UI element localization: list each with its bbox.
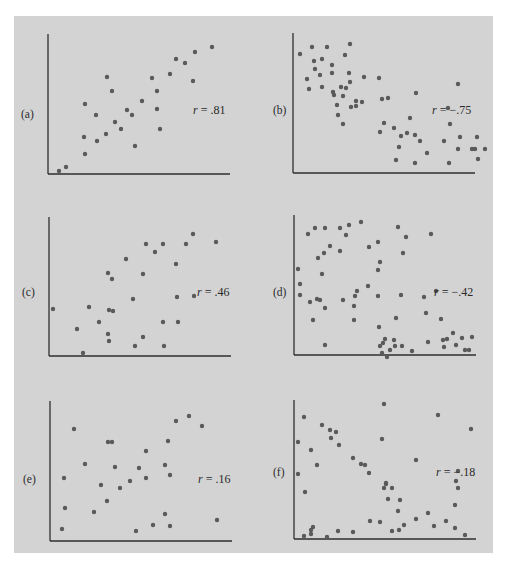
data-point [354, 104, 358, 108]
data-point [99, 483, 103, 487]
data-point [137, 466, 141, 470]
data-point [460, 336, 464, 340]
data-point [393, 344, 397, 348]
data-point [396, 509, 400, 513]
data-point [106, 440, 110, 444]
data-point [398, 498, 402, 502]
data-point [394, 158, 398, 162]
data-point [83, 462, 87, 466]
data-point [312, 59, 316, 63]
data-point [168, 524, 172, 528]
data-point [349, 105, 353, 109]
data-point [141, 335, 145, 339]
data-point [318, 298, 322, 302]
data-point [105, 499, 109, 503]
data-point [168, 473, 172, 477]
data-point [162, 344, 166, 348]
data-point [214, 240, 218, 244]
data-point [386, 497, 390, 501]
data-point [448, 122, 452, 126]
data-point [347, 223, 351, 227]
data-point [467, 348, 471, 352]
data-point [161, 242, 165, 246]
data-point [151, 523, 155, 527]
data-point [329, 436, 333, 440]
data-point [309, 448, 313, 452]
data-point [453, 503, 457, 507]
data-point [442, 139, 446, 143]
data-point [298, 293, 302, 297]
data-point [390, 486, 394, 490]
data-point [352, 318, 356, 322]
data-point [456, 147, 460, 151]
data-point [174, 419, 178, 423]
data-point [134, 529, 138, 533]
data-point [310, 45, 314, 49]
data-point [200, 424, 204, 428]
data-point [320, 423, 324, 427]
data-point [454, 479, 458, 483]
data-point [83, 102, 87, 106]
data-point [215, 518, 219, 522]
data-point [168, 72, 172, 76]
data-point [110, 277, 114, 281]
data-point [311, 318, 315, 322]
data-point [128, 479, 132, 483]
data-point [309, 532, 313, 536]
scatter-plot-a: (a)r = .81 [21, 34, 230, 174]
data-point [311, 525, 315, 529]
data-point [113, 120, 117, 124]
data-point [381, 341, 385, 345]
data-point [380, 351, 384, 355]
data-point [418, 139, 422, 143]
data-point [429, 232, 433, 236]
data-point [378, 520, 382, 524]
data-point [305, 77, 309, 81]
data-point [360, 100, 364, 104]
data-point [363, 463, 367, 467]
data-point [348, 42, 352, 46]
data-point [338, 226, 342, 230]
data-point [158, 127, 162, 131]
data-point [352, 304, 356, 308]
data-point [155, 89, 159, 93]
data-point [62, 476, 66, 480]
data-point [64, 165, 68, 169]
data-point [376, 268, 380, 272]
data-point [302, 534, 306, 538]
data-point [191, 232, 195, 236]
correlation-annotation: r = −.18 [436, 465, 475, 479]
data-point [332, 93, 336, 97]
data-point [354, 99, 358, 103]
data-point [338, 249, 342, 253]
data-point [320, 57, 324, 61]
panel-label: (b) [273, 104, 287, 117]
data-point [133, 144, 137, 148]
data-point [95, 139, 99, 143]
correlation-annotation: r = .46 [197, 285, 229, 299]
panel-label: (e) [23, 473, 36, 486]
data-point [336, 529, 340, 533]
data-point [351, 530, 355, 534]
data-point [414, 517, 418, 521]
data-point [111, 309, 115, 313]
data-point [383, 337, 387, 341]
data-point [458, 135, 462, 139]
data-point [296, 440, 300, 444]
data-point [355, 289, 359, 293]
data-point [404, 235, 408, 239]
data-point [335, 103, 339, 107]
data-point [380, 437, 384, 441]
data-point [405, 131, 409, 135]
data-point [392, 126, 396, 130]
data-point [313, 226, 317, 230]
data-point [110, 89, 114, 93]
data-point [183, 61, 187, 65]
scatter-plot-e: (e)r = .16 [23, 401, 232, 541]
data-point [441, 338, 445, 342]
data-point [325, 535, 329, 539]
data-point [187, 414, 191, 418]
data-point [92, 510, 96, 514]
data-point [444, 519, 448, 523]
data-point [367, 245, 371, 249]
